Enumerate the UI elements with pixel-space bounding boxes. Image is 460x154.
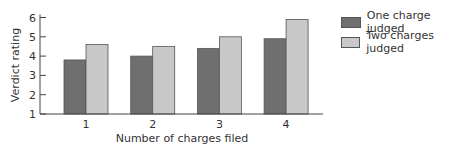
bar [197, 48, 219, 114]
y-tick-label: 2 [29, 89, 36, 102]
x-axis: 1234 [40, 114, 323, 131]
legend: One charge judged Two charges judged [341, 12, 460, 52]
x-tick-label: 1 [83, 118, 90, 131]
bar [86, 45, 108, 114]
y-axis: 123456 [29, 12, 46, 122]
x-tick-label: 4 [283, 118, 290, 131]
legend-swatch-icon [341, 37, 360, 48]
x-tick-label: 3 [216, 118, 223, 131]
bar [131, 56, 153, 114]
bar [286, 19, 308, 114]
bar [219, 37, 241, 114]
bar [64, 60, 86, 114]
legend-swatch-icon [341, 17, 361, 28]
y-tick-label: 1 [29, 108, 36, 121]
legend-label: Two charges judged [366, 29, 460, 55]
bars [64, 19, 308, 114]
y-tick-label: 4 [29, 50, 36, 63]
legend-item-two-charges: Two charges judged [341, 32, 460, 52]
y-tick-label: 6 [29, 12, 36, 25]
y-axis-title: Verdict rating [9, 28, 22, 102]
y-tick-label: 5 [29, 31, 36, 44]
y-tick-label: 3 [29, 69, 36, 82]
x-axis-title: Number of charges filed [116, 132, 249, 145]
bar [264, 39, 286, 114]
x-tick-label: 2 [149, 118, 156, 131]
bar [153, 46, 175, 114]
